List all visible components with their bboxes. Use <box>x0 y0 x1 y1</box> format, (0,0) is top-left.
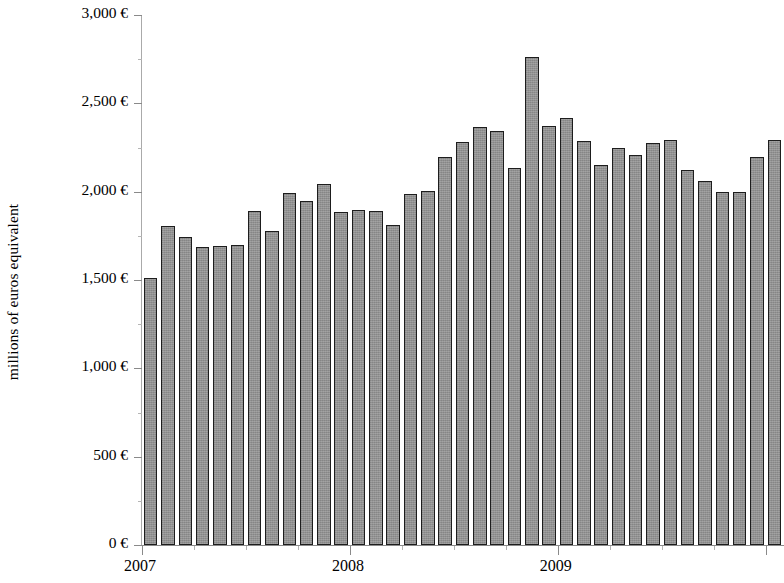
bar <box>473 127 487 545</box>
bar <box>386 225 400 545</box>
bar <box>265 231 279 545</box>
x-axis-minor-tick-mark <box>194 546 195 550</box>
bar <box>283 193 297 545</box>
bar <box>369 211 383 545</box>
bar <box>456 142 470 545</box>
bar <box>594 165 608 545</box>
bar <box>161 226 175 545</box>
bar <box>664 140 678 545</box>
x-axis-tick-mark <box>142 546 143 555</box>
x-axis-tick-label: 2009 <box>540 557 572 575</box>
bar <box>179 237 193 545</box>
bar <box>525 57 539 545</box>
bar <box>144 278 158 545</box>
x-axis-minor-tick-mark <box>402 546 403 550</box>
x-axis-tick-mark <box>558 546 559 555</box>
bar <box>612 148 626 545</box>
bar <box>733 192 747 545</box>
x-axis-tick-mark <box>766 546 767 555</box>
x-axis-minor-tick-mark <box>298 546 299 550</box>
bar <box>300 201 314 545</box>
bar <box>213 246 227 545</box>
bar <box>716 192 730 545</box>
bar <box>231 245 245 545</box>
bar <box>196 247 210 545</box>
bar <box>750 157 764 545</box>
bar-chart: millions of euros equivalent 0 €500 €1,0… <box>0 0 784 583</box>
bar-series <box>0 0 784 583</box>
bar <box>542 126 556 545</box>
bar <box>681 170 695 545</box>
bar <box>334 212 348 545</box>
x-axis-tick-mark <box>350 546 351 555</box>
bar <box>438 157 452 545</box>
bar <box>248 211 262 545</box>
bar <box>577 141 591 545</box>
x-axis-minor-tick-mark <box>454 546 455 550</box>
x-axis-tick-label: 2007 <box>124 557 156 575</box>
x-axis-minor-tick-mark <box>662 546 663 550</box>
bar <box>768 140 782 545</box>
bar <box>629 155 643 545</box>
bar <box>508 168 522 545</box>
bar <box>698 181 712 545</box>
x-axis-line <box>141 545 784 546</box>
x-axis-minor-tick-mark <box>246 546 247 550</box>
bar <box>560 118 574 545</box>
bar <box>421 191 435 545</box>
x-axis-minor-tick-mark <box>714 546 715 550</box>
bar <box>490 131 504 545</box>
bar <box>352 210 366 545</box>
bar <box>317 184 331 545</box>
x-axis-tick-label: 2008 <box>332 557 364 575</box>
x-axis-minor-tick-mark <box>506 546 507 550</box>
x-axis-minor-tick-mark <box>610 546 611 550</box>
bar <box>404 194 418 545</box>
bar <box>646 143 660 545</box>
